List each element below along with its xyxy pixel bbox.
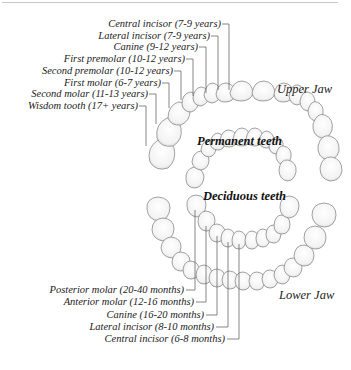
label-deciduous-lateral-incisor: Lateral incisor (8-10 months) [89, 321, 214, 333]
label-permanent-second-molar: Second molar (11-13 years) [31, 88, 148, 100]
deciduous-teeth-title: Deciduous teeth [203, 189, 286, 204]
permanent-teeth-title: Permanent teeth [197, 134, 282, 149]
label-permanent-canine: Canine (9-12 years) [113, 41, 198, 53]
label-deciduous-central-incisor: Central incisor (6-8 months) [105, 333, 225, 345]
label-deciduous-posterior-molar: Posterior molar (20-40 months) [50, 284, 184, 296]
label-deciduous-canine: Canine (16-20 months) [107, 309, 204, 321]
label-deciduous-anterior-molar: Anterior molar (12-16 months) [64, 296, 194, 308]
upper-jaw-label: Upper Jaw [277, 82, 332, 97]
label-permanent-first-premolar: First premolar (10-12 years) [64, 53, 185, 65]
lower-jaw-label: Lower Jaw [279, 288, 334, 303]
label-permanent-second-premolar: Second premolar (10-12 years) [42, 65, 173, 77]
label-permanent-central-incisor: Central incisor (7-9 years) [108, 18, 221, 30]
label-permanent-wisdom-tooth: Wisdom tooth (17+ years) [28, 100, 138, 112]
